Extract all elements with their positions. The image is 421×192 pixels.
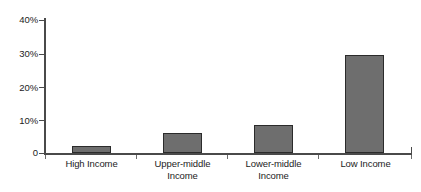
y-axis-label-10: 10% bbox=[0, 116, 38, 126]
y-axis-label-0: 0 bbox=[0, 148, 38, 158]
x-axis-end-cap bbox=[411, 147, 412, 154]
bar-chart: 40% 30% 20% 10% 0 High Income Upper-midd… bbox=[0, 0, 421, 192]
y-axis-label-30: 30% bbox=[0, 49, 38, 59]
x-axis-label-upper-middle-income: Upper-middle Income bbox=[137, 158, 228, 181]
y-axis-label-10-text: 10% bbox=[2, 116, 38, 126]
y-axis-label-20-text: 20% bbox=[2, 83, 38, 93]
x-axis-label-low-income: Low Income bbox=[319, 158, 412, 170]
y-axis-line bbox=[44, 18, 46, 155]
bar-upper-middle-income[interactable] bbox=[163, 133, 202, 153]
bar-lower-middle-income[interactable] bbox=[254, 125, 293, 153]
x-axis-label-lower-middle-income: Lower-middle Income bbox=[228, 158, 319, 181]
y-axis-label-40-text: 40% bbox=[2, 15, 38, 25]
bar-high-income[interactable] bbox=[72, 146, 111, 153]
y-axis-label-30-text: 30% bbox=[2, 49, 38, 59]
y-axis-label-0-text: 0 bbox=[2, 148, 38, 158]
x-axis-label-high-income: High Income bbox=[46, 158, 137, 170]
x-axis-line bbox=[44, 153, 412, 155]
y-axis-label-20: 20% bbox=[0, 83, 38, 93]
bar-low-income[interactable] bbox=[345, 55, 384, 153]
y-axis-label-40: 40% bbox=[0, 15, 38, 25]
